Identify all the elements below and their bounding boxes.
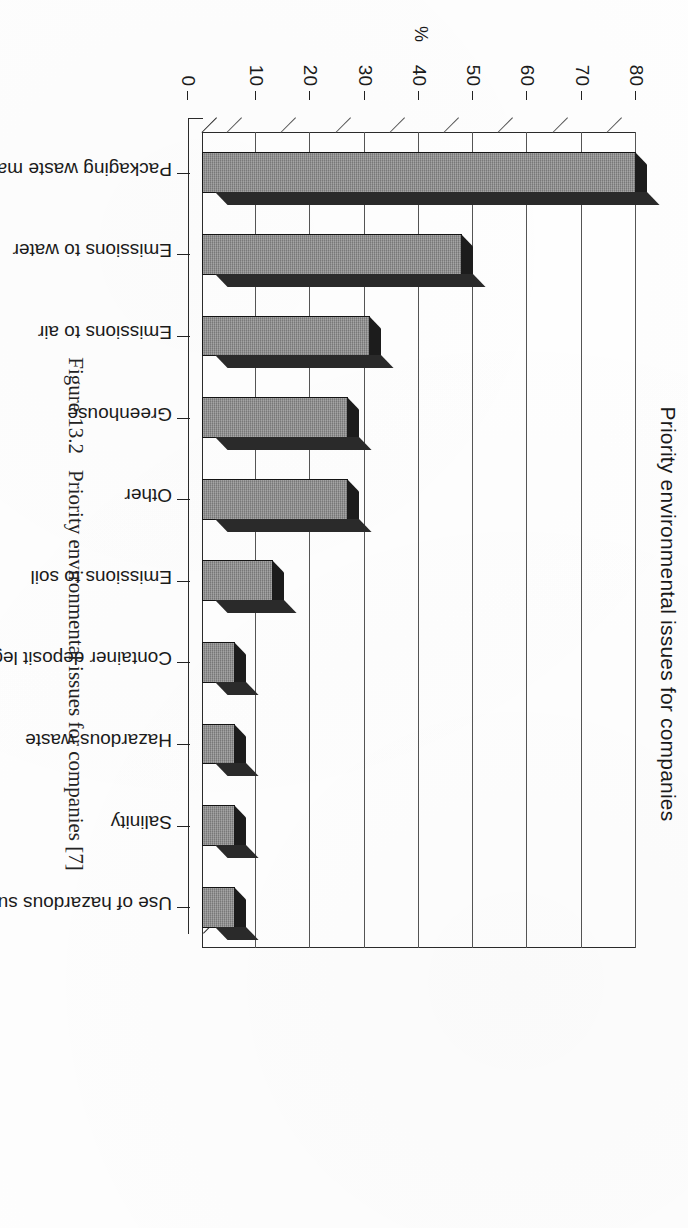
bar-texture: [203, 480, 347, 519]
plot-depth-edge-right: [188, 933, 203, 948]
value-axis-tick: [187, 91, 188, 100]
category-label: Hazardous waste: [25, 729, 172, 751]
value-axis-label: 40: [408, 65, 430, 86]
gridline-depth-edge: [606, 117, 622, 133]
gridline: [527, 132, 528, 948]
category-label: Salinity: [111, 811, 172, 833]
category-axis-tick: [177, 662, 190, 663]
gridline-depth-edge: [552, 117, 568, 133]
bar-texture: [203, 235, 461, 274]
category-axis-tick: [177, 826, 190, 827]
value-axis-tick: [635, 91, 636, 100]
plot-depth-edge-left: [202, 118, 217, 133]
category-label: Other: [124, 484, 172, 506]
value-axis-label: 20: [300, 65, 322, 86]
bar-side-face: [215, 600, 296, 613]
plot-area: [188, 118, 636, 948]
gridline-depth-edge: [281, 117, 297, 133]
bar: [202, 479, 348, 520]
value-axis-label: 80: [625, 65, 647, 86]
category-axis-tick: [177, 336, 190, 337]
bar: [202, 560, 273, 601]
gridline-depth-edge: [389, 117, 405, 133]
category-axis-tick: [177, 744, 190, 745]
bar-side-face: [215, 355, 394, 368]
bar: [202, 397, 348, 438]
category-label: Emissions to soil: [31, 566, 173, 588]
value-axis-label: 30: [354, 65, 376, 86]
bar-texture: [203, 153, 635, 192]
bar-texture: [203, 643, 234, 682]
chart-title: Priority environmental issues for compan…: [656, 0, 680, 1228]
bar-chart: Priority environmental issues for compan…: [128, 0, 688, 1228]
value-axis: % 01020304050607080: [188, 0, 636, 104]
bar: [202, 642, 235, 683]
bar-texture: [203, 888, 234, 927]
category-axis-tick: [177, 173, 190, 174]
category-axis-tick: [177, 581, 190, 582]
gridline: [581, 132, 582, 948]
gridline-depth-edge: [335, 117, 351, 133]
category-label: Emissions to water: [13, 239, 172, 261]
value-axis-label: 50: [462, 65, 484, 86]
gridline-depth-edge: [227, 117, 243, 133]
value-axis-tick: [472, 91, 473, 100]
value-axis-tick: [255, 91, 256, 100]
bar: [202, 887, 235, 928]
value-axis-tick: [364, 91, 365, 100]
bar-texture: [203, 317, 369, 356]
figure-page: Priority environmental issues for compan…: [0, 0, 688, 1228]
bar-texture: [203, 398, 347, 437]
gridline: [635, 132, 636, 948]
category-axis-tick: [177, 418, 190, 419]
value-axis-tick: [418, 91, 419, 100]
category-axis-tick: [177, 254, 190, 255]
value-axis-tick: [310, 91, 311, 100]
bar-side-face: [215, 437, 372, 450]
bar: [202, 234, 462, 275]
bar: [202, 316, 370, 357]
gridline-depth-edge: [444, 117, 460, 133]
bar: [202, 152, 636, 193]
value-axis-label: 70: [571, 65, 593, 86]
bar: [202, 805, 235, 846]
rotated-figure-stage: Priority environmental issues for compan…: [0, 0, 688, 1228]
bar-side-face: [215, 192, 660, 205]
plot-floor-line: [188, 118, 189, 934]
category-axis: Packaging waste managementEmissions to w…: [0, 118, 178, 948]
category-label: Emissions to air: [38, 321, 172, 343]
gridline-depth-edge: [498, 117, 514, 133]
figure-number: Figure 13.2: [64, 357, 88, 454]
value-axis-tick: [527, 91, 528, 100]
value-axis-label: 10: [245, 65, 267, 86]
value-axis-label: 0: [177, 75, 199, 86]
value-axis-tick: [581, 91, 582, 100]
category-axis-tick: [177, 907, 190, 908]
bar-texture: [203, 561, 272, 600]
axis-unit-label: %: [410, 26, 431, 42]
category-axis-tick: [177, 499, 190, 500]
figure-caption-text: Priority environmental issues for compan…: [64, 470, 88, 871]
bar-side-face: [215, 274, 486, 287]
bar-texture: [203, 806, 234, 845]
bar-side-face: [215, 519, 372, 532]
value-axis-label: 60: [517, 65, 539, 86]
bar-texture: [203, 725, 234, 764]
figure-caption: Figure 13.2Priority environmental issues…: [63, 0, 88, 1228]
bar: [202, 724, 235, 765]
